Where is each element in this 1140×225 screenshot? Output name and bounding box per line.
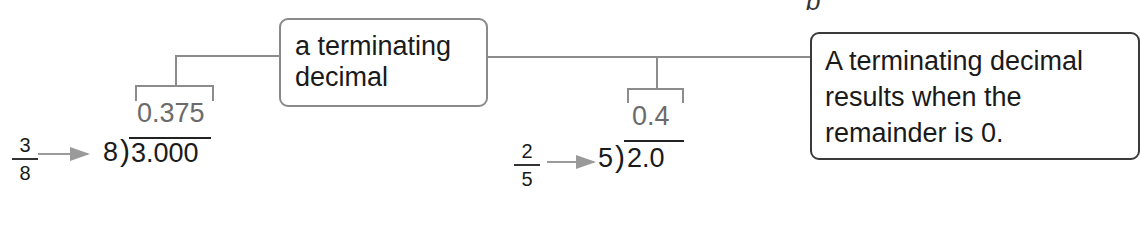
fraction-bar: [514, 164, 540, 166]
concept-line-1: a terminating: [295, 31, 472, 62]
quotient: 0.375: [137, 98, 205, 129]
bracket-top: [627, 88, 684, 90]
division-bracket: ): [615, 140, 625, 174]
rule-line-3: remainder is 0.: [825, 115, 1124, 151]
rule-box: A terminating decimal results when the r…: [810, 32, 1140, 160]
division-bracket: ): [120, 134, 130, 168]
divisor: 8: [103, 137, 118, 168]
fraction-3-8: 3 8: [12, 134, 38, 184]
dividend: 3.000: [131, 138, 199, 169]
numerator: 3: [12, 134, 38, 156]
divisor: 5: [598, 143, 613, 174]
bracket-right: [212, 85, 214, 101]
fraction-2-5: 2 5: [514, 140, 540, 190]
bracket-left: [627, 88, 629, 103]
connector-line: [487, 56, 810, 58]
vinculum: [624, 140, 684, 142]
bracket-top: [135, 85, 214, 87]
numerator: 2: [514, 140, 540, 162]
rule-line-1: A terminating decimal: [825, 43, 1124, 79]
concept-box: a terminating decimal: [279, 18, 488, 107]
connector-line: [175, 55, 279, 57]
bracket-stem: [175, 55, 177, 86]
arrow-icon: [38, 153, 88, 155]
dividend: 2.0: [627, 143, 665, 174]
arrow-icon: [547, 161, 594, 163]
bracket-right: [682, 88, 684, 103]
denominator: 5: [514, 168, 540, 190]
bracket-stem: [656, 57, 658, 89]
corner-label: b: [806, 0, 820, 17]
fraction-bar: [12, 158, 38, 160]
concept-line-2: decimal: [295, 62, 472, 93]
quotient: 0.4: [632, 101, 670, 132]
rule-line-2: results when the: [825, 79, 1124, 115]
denominator: 8: [12, 162, 38, 184]
